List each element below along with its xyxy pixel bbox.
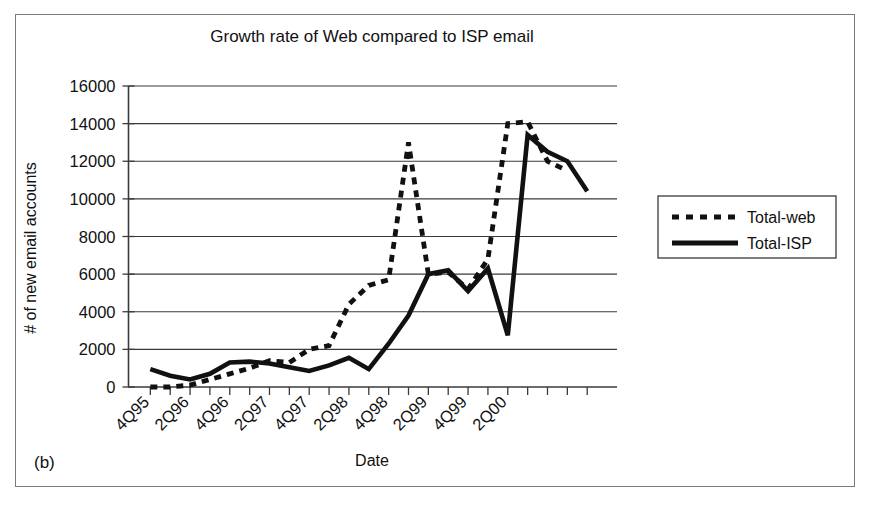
chart-legend[interactable]: Total-web Total-ISP xyxy=(658,196,836,258)
x-tick-label: 4Q99 xyxy=(429,392,470,433)
x-tick-label: 4Q95 xyxy=(111,392,152,433)
x-tick-label: 2Q97 xyxy=(230,392,271,433)
y-tick-label: 10000 xyxy=(70,190,116,208)
x-tick-marks-group xyxy=(150,387,587,395)
y-tick-label: 12000 xyxy=(70,152,116,170)
y-tick-label: 16000 xyxy=(70,77,116,95)
x-tick-label: 4Q96 xyxy=(191,392,232,433)
y-tick-label: 4000 xyxy=(79,303,116,321)
panel-label: (b) xyxy=(34,453,55,472)
y-tick-label: 0 xyxy=(106,378,115,396)
y-tick-label: 2000 xyxy=(79,340,116,358)
x-tick-label: 4Q97 xyxy=(270,392,311,433)
chart-canvas: Growth rate of Web compared to ISP email… xyxy=(0,0,869,508)
x-tick-labels-group: 4Q952Q964Q962Q974Q972Q984Q982Q994Q992Q00 xyxy=(111,392,510,433)
x-tick-label: 4Q98 xyxy=(349,392,390,433)
x-axis-title: Date xyxy=(355,452,389,469)
legend-label-total-isp: Total-ISP xyxy=(747,235,812,252)
y-axis-title: # of new email accounts xyxy=(22,162,39,334)
y-tick-labels-group: 0200040006000800010000120001400016000 xyxy=(70,77,116,396)
x-tick-label: 2Q96 xyxy=(151,392,192,433)
x-tick-label: 2Q98 xyxy=(310,392,351,433)
y-tick-label: 8000 xyxy=(79,228,116,246)
series-line-total-isp xyxy=(150,135,587,380)
y-tick-label: 14000 xyxy=(70,115,116,133)
x-tick-label: 2Q99 xyxy=(389,392,430,433)
legend-label-total-web: Total-web xyxy=(747,209,816,226)
y-tick-label: 6000 xyxy=(79,265,116,283)
chart-title: Growth rate of Web compared to ISP email xyxy=(210,27,533,46)
x-tick-label: 2Q00 xyxy=(469,392,510,433)
gridlines-group xyxy=(129,86,618,349)
